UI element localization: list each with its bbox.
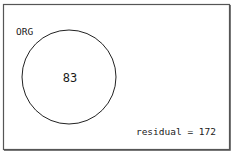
residual-label: residual = 172 bbox=[136, 126, 216, 137]
venn-diagram: ORG 83 residual = 172 bbox=[0, 0, 233, 155]
set-count-org: 83 bbox=[63, 71, 77, 85]
set-label-org: ORG bbox=[16, 26, 33, 37]
